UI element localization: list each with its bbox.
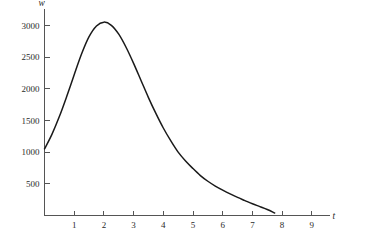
y-tick-label: 2500 bbox=[22, 52, 41, 62]
x-axis-label: t bbox=[333, 211, 336, 221]
x-axis-ticks: 123456789 bbox=[72, 211, 315, 230]
y-tick-label: 1500 bbox=[22, 116, 41, 126]
x-tick-label: 9 bbox=[310, 220, 315, 230]
x-tick-label: 1 bbox=[72, 220, 77, 230]
x-tick-label: 8 bbox=[280, 220, 285, 230]
y-tick-label: 3000 bbox=[22, 21, 41, 31]
x-tick-label: 7 bbox=[250, 220, 255, 230]
y-axis-label: w bbox=[39, 0, 46, 8]
y-axis-ticks: 50010001500200025003000 bbox=[22, 21, 50, 190]
x-tick-label: 4 bbox=[161, 220, 166, 230]
y-tick-label: 500 bbox=[26, 179, 40, 189]
chart-figure: 50010001500200025003000 123456789 w t bbox=[0, 0, 373, 250]
x-tick-label: 6 bbox=[220, 220, 225, 230]
chart-plot-area: 50010001500200025003000 123456789 w t bbox=[0, 0, 373, 250]
x-tick-label: 5 bbox=[191, 220, 196, 230]
data-curve-w bbox=[45, 22, 275, 213]
x-tick-label: 3 bbox=[131, 220, 136, 230]
y-tick-label: 1000 bbox=[22, 147, 41, 157]
y-tick-label: 2000 bbox=[22, 84, 41, 94]
x-tick-label: 2 bbox=[102, 220, 107, 230]
